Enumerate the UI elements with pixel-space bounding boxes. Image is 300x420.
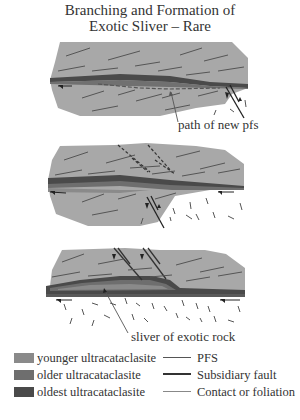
swatch-icon [14, 387, 34, 397]
panel-3 [46, 248, 245, 333]
legend: younger ultracataclasite older ultracata… [0, 350, 300, 400]
annotation-path-of-new-pfs: path of new pfs [178, 117, 259, 133]
panel-1 [50, 42, 248, 122]
legend-older-ultracataclasite: older ultracataclasite [14, 368, 141, 383]
swatch-icon [14, 353, 34, 363]
line-icon [163, 357, 191, 358]
annotation-sliver-of-exotic-rock: sliver of exotic rock [131, 329, 235, 345]
line-icon [163, 373, 191, 375]
legend-subsidiary-fault: Subsidiary fault [163, 368, 277, 383]
line-icon [163, 391, 191, 392]
legend-pfs: PFS [163, 351, 218, 366]
panel-2 [48, 143, 244, 228]
caption-cutoff: ... [0, 408, 300, 420]
legend-contact-or-foliation: Contact or foliation [163, 385, 295, 400]
swatch-icon [14, 370, 34, 380]
legend-younger-ultracataclasite: younger ultracataclasite [14, 351, 156, 366]
matrix-foliation [64, 298, 240, 326]
legend-oldest-ultracataclasite: oldest ultracataclasite [14, 385, 145, 400]
diagram-svg [0, 0, 300, 350]
